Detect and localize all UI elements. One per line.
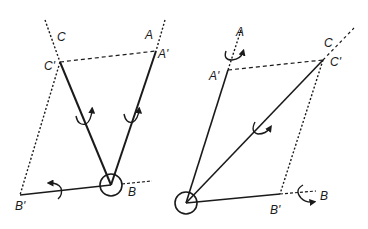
left-label-cprime: C': [44, 59, 56, 73]
right-rod-aprime: [186, 70, 228, 203]
left-label-b: B: [128, 185, 136, 199]
right-label-c: C: [324, 36, 333, 50]
right-label-a: A: [235, 25, 244, 39]
right-dotted-cprime-bprime: [280, 60, 323, 194]
left-rod-aprime: [111, 51, 156, 185]
left-diagram: [20, 20, 165, 199]
left-dotted-cprime-bprime: [20, 62, 60, 195]
left-rotation-arrow-icon-2: [124, 110, 139, 122]
left-label-aprime: A': [157, 47, 169, 61]
left-rod-bprime: [20, 185, 111, 195]
left-dashed-cprime-aprime: [60, 51, 156, 62]
right-label-aprime: A': [208, 69, 220, 83]
left-label-bprime: B': [15, 199, 26, 213]
right-label-cprime: C': [330, 55, 342, 69]
right-rotation-arrow-icon-1: [225, 51, 243, 60]
right-rotation-arrow-icon-3: [298, 185, 313, 202]
right-label-bprime: B': [270, 203, 281, 217]
right-label-b: B: [320, 189, 328, 203]
left-label-a: A: [144, 28, 153, 42]
right-rod-bprime: [186, 194, 280, 203]
rotation-diagram: C C' A A' B B' A A' C C' B B': [0, 0, 368, 229]
right-diagram: [175, 28, 354, 214]
right-dashed-aprime-cprime: [228, 60, 323, 70]
left-label-c: C: [57, 30, 66, 44]
left-dashed-b: [122, 181, 152, 184]
